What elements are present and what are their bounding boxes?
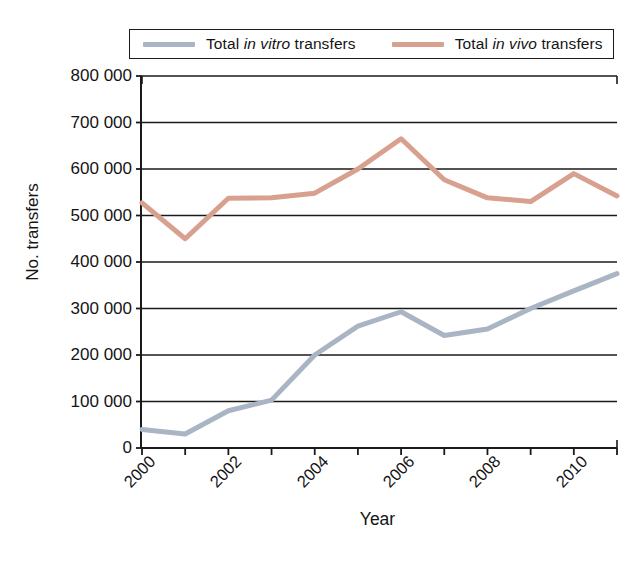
chart-figure: Total in vitro transfers Total in vivo t…: [0, 0, 644, 564]
chart-legend: Total in vitro transfers Total in vivo t…: [129, 29, 614, 59]
series-lines: [142, 139, 617, 434]
x-axis-tick-label: 2008: [450, 452, 504, 506]
legend-label-in-vitro-suffix: transfers: [290, 35, 356, 52]
series-line-in-vivo: [142, 139, 617, 239]
y-axis-ticks: [136, 76, 142, 448]
y-axis-title: No. transfers: [23, 152, 43, 312]
y-axis-tick-label: 0: [22, 438, 132, 458]
legend-label-in-vivo-prefix: Total: [455, 35, 493, 52]
x-axis-tick-label: 2006: [364, 452, 418, 506]
plot-area: [140, 76, 615, 448]
legend-label-in-vitro: Total in vitro transfers: [206, 35, 356, 53]
legend-entry-in-vivo[interactable]: Total in vivo transfers: [392, 35, 603, 53]
legend-swatch-in-vivo: [392, 42, 444, 47]
x-axis-tick-label: 2010: [537, 452, 591, 506]
series-line-in-vitro: [142, 274, 617, 434]
plot-svg: [142, 76, 617, 448]
x-axis-tick-label: 2002: [191, 452, 245, 506]
legend-label-in-vivo-suffix: transfers: [537, 35, 603, 52]
x-axis-tick-label: 2004: [278, 452, 332, 506]
legend-entry-in-vitro[interactable]: Total in vitro transfers: [143, 35, 356, 53]
y-axis-tick-label: 700 000: [22, 113, 132, 133]
y-axis-tick-label: 100 000: [22, 392, 132, 412]
y-axis-tick-label: 200 000: [22, 345, 132, 365]
x-axis-tick-labels: 200020022004200620082010: [140, 452, 620, 512]
legend-label-in-vivo-italic: in vivo: [492, 35, 537, 52]
x-axis-tick-label: 2000: [105, 452, 159, 506]
x-axis-title: Year: [140, 509, 615, 530]
legend-label-in-vitro-italic: in vitro: [244, 35, 290, 52]
legend-label-in-vivo: Total in vivo transfers: [455, 35, 603, 53]
gridlines: [142, 76, 617, 448]
y-axis-tick-label: 800 000: [22, 66, 132, 86]
legend-swatch-in-vitro: [143, 42, 195, 47]
legend-label-in-vitro-prefix: Total: [206, 35, 244, 52]
